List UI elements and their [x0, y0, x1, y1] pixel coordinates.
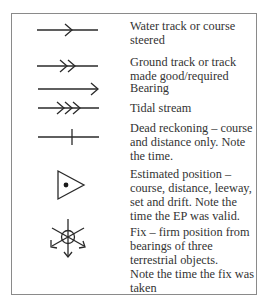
- water-track-label: Water track or course steered: [130, 19, 258, 47]
- tidal-stream-symbol-icon: [37, 100, 101, 116]
- fix-symbol-icon: [49, 218, 89, 260]
- water-track-symbol-icon: [36, 22, 100, 38]
- bearing-symbol-icon: [37, 81, 101, 97]
- estimated-position-symbol-icon: [56, 169, 86, 201]
- dead-reckoning-symbol-icon: [37, 127, 101, 147]
- fix-time-note: Note the time the fix was taken: [130, 267, 258, 295]
- fix-label: Fix – firm position from bearings of thr…: [130, 225, 258, 267]
- tidal-stream-label: Tidal stream: [130, 101, 258, 115]
- bearing-label: Bearing: [130, 81, 258, 95]
- ground-track-symbol-icon: [36, 58, 100, 74]
- dead-reckoning-label: Dead reckoning – course and distance onl…: [130, 121, 258, 163]
- ground-track-label: Ground track or track made good/required: [130, 55, 258, 83]
- estimated-position-label: Estimated position – course, distance, l…: [130, 167, 258, 223]
